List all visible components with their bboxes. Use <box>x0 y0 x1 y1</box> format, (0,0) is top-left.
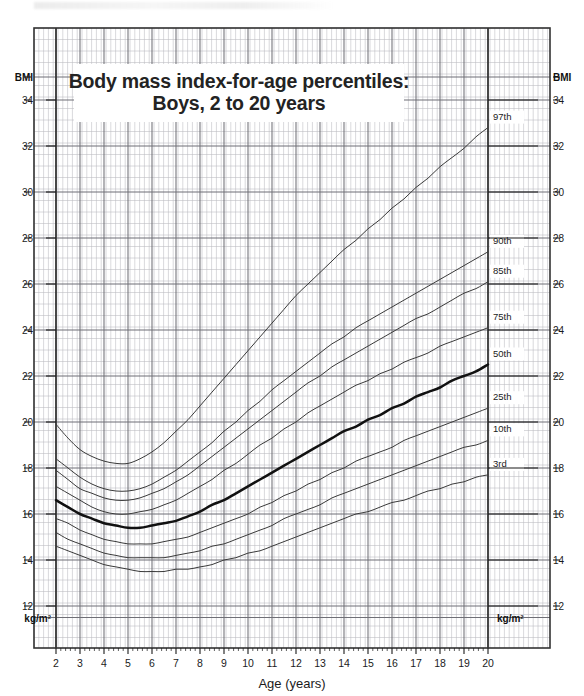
y-unit-top-right: BMI <box>553 72 572 83</box>
percentile-label-3rd: 3rd <box>493 458 507 469</box>
y-tick-left-16: 16 <box>22 509 34 520</box>
x-tick-10: 10 <box>242 657 254 669</box>
y-tick-left-20: 20 <box>22 417 34 428</box>
y-tick-left-12: 12 <box>22 601 34 612</box>
bmi-growth-chart-page: 97th90th85th75th50th25th10th3rd 34343232… <box>0 0 584 696</box>
y-tick-left-34: 34 <box>22 95 34 106</box>
x-tick-17: 17 <box>410 657 422 669</box>
y-unit-bottom-right: kg/m² <box>497 613 524 624</box>
x-tick-20: 20 <box>482 657 494 669</box>
percentile-label-75th: 75th <box>493 311 512 322</box>
y-tick-right-22: 22 <box>553 371 565 382</box>
y-tick-left-18: 18 <box>22 463 34 474</box>
percentile-labels: 97th90th85th75th50th25th10th3rd <box>493 111 512 469</box>
y-tick-right-30: 30 <box>553 187 565 198</box>
y-tick-left-26: 26 <box>22 279 34 290</box>
x-axis-title: Age (years) <box>258 676 325 691</box>
x-tick-19: 19 <box>458 657 470 669</box>
y-tick-left-22: 22 <box>22 371 34 382</box>
x-tick-6: 6 <box>149 657 155 669</box>
y-tick-right-14: 14 <box>553 555 565 566</box>
percentile-label-97th: 97th <box>493 111 512 122</box>
x-tick-4: 4 <box>101 657 107 669</box>
y-tick-left-30: 30 <box>22 187 34 198</box>
y-unit-top-left: BMI <box>15 72 34 83</box>
chart-title-line2: Boys, 2 to 20 years <box>153 93 326 115</box>
percentile-label-50th: 50th <box>493 348 512 359</box>
percentile-label-85th: 85th <box>493 265 512 276</box>
y-tick-right-34: 34 <box>553 95 565 106</box>
x-tick-14: 14 <box>338 657 350 669</box>
y-tick-right-26: 26 <box>553 279 565 290</box>
x-tick-3: 3 <box>77 657 83 669</box>
y-tick-right-24: 24 <box>553 325 565 336</box>
y-tick-right-28: 28 <box>553 233 565 244</box>
y-tick-right-12: 12 <box>553 601 565 612</box>
x-tick-7: 7 <box>173 657 179 669</box>
x-tick-16: 16 <box>386 657 398 669</box>
x-tick-12: 12 <box>290 657 302 669</box>
x-tick-18: 18 <box>434 657 446 669</box>
chart-title-block: Body mass index-for-age percentiles: Boy… <box>74 64 404 122</box>
x-tick-9: 9 <box>221 657 227 669</box>
x-tick-15: 15 <box>362 657 374 669</box>
y-unit-bottom-left: kg/m² <box>24 613 51 624</box>
x-tick-13: 13 <box>314 657 326 669</box>
y-tick-right-32: 32 <box>553 141 565 152</box>
x-tick-11: 11 <box>267 657 278 669</box>
y-tick-left-14: 14 <box>22 555 34 566</box>
x-tick-8: 8 <box>197 657 203 669</box>
y-tick-right-18: 18 <box>553 463 565 474</box>
x-tick-2: 2 <box>53 657 59 669</box>
y-tick-right-16: 16 <box>553 509 565 520</box>
y-tick-left-24: 24 <box>22 325 34 336</box>
chart-title-line1: Body mass index-for-age percentiles: <box>69 71 410 93</box>
y-tick-right-20: 20 <box>553 417 565 428</box>
percentile-label-90th: 90th <box>493 235 512 246</box>
x-tick-5: 5 <box>125 657 131 669</box>
x-axis-ticks: 234567891011121314151617181920 <box>53 648 494 669</box>
y-tick-left-32: 32 <box>22 141 34 152</box>
percentile-label-25th: 25th <box>493 391 512 402</box>
percentile-label-10th: 10th <box>493 423 512 434</box>
y-tick-left-28: 28 <box>22 233 34 244</box>
